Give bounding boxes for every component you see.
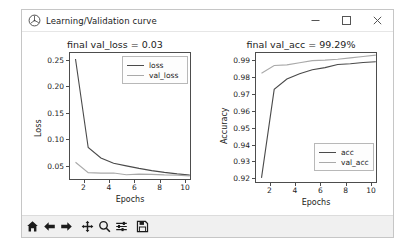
loss-xtick-label: 10: [175, 183, 195, 192]
accuracy-ytick-label: 0.94: [224, 141, 250, 150]
legend-label: acc: [341, 148, 354, 157]
subplot-config-icon[interactable]: [113, 218, 130, 236]
accuracy-ytick-label: 0.96: [224, 107, 250, 116]
loss-ytick-label: 0.15: [38, 109, 64, 118]
accuracy-xtick-label: 4: [285, 186, 305, 195]
loss-ytick-label: 0.05: [38, 162, 64, 171]
legend-swatch-acc: [319, 152, 336, 153]
loss-chart-title: final val_loss = 0.03: [22, 39, 208, 50]
legend-entry: acc: [319, 147, 369, 157]
accuracy-legend: acc val_acc: [314, 143, 374, 171]
accuracy-xtick-label: 6: [310, 186, 330, 195]
legend-entry: loss: [127, 60, 183, 70]
legend-entry: val_loss: [127, 70, 183, 80]
legend-label: loss: [149, 61, 164, 70]
accuracy-xtick-label: 2: [260, 186, 280, 195]
window-title: Learning/Validation curve: [46, 16, 300, 26]
navigation-toolbar: [22, 215, 393, 237]
accuracy-ytick-label: 0.95: [224, 124, 250, 133]
loss-xtick-label: 8: [150, 183, 170, 192]
legend-swatch-val-acc: [319, 162, 336, 163]
loss-xtick-label: 2: [74, 183, 94, 192]
maximize-button[interactable]: [331, 10, 362, 31]
accuracy-x-axis-label: Epochs: [255, 198, 377, 207]
zoom-magnifier-icon[interactable]: [96, 218, 113, 236]
legend-label: val_acc: [341, 158, 369, 167]
accuracy-ytick-label: 0.99: [224, 56, 250, 65]
legend-label: val_loss: [149, 71, 178, 80]
legend-swatch-val-loss: [127, 75, 144, 76]
pan-move-icon[interactable]: [79, 218, 96, 236]
loss-ytick-label: 0.10: [38, 135, 64, 144]
loss-x-axis-label: Epochs: [69, 195, 191, 204]
loss-xtick-label: 4: [99, 183, 119, 192]
loss-xtick-label: 6: [124, 183, 144, 192]
accuracy-ytick-label: 0.92: [224, 174, 250, 183]
matplotlib-figure-icon: [27, 14, 41, 28]
accuracy-axes: final val_acc = 99.29% Accuracy 0.99 0.9…: [208, 32, 393, 215]
accuracy-xtick-label: 8: [336, 186, 356, 195]
accuracy-xtick-label: 10: [361, 186, 381, 195]
close-button[interactable]: [362, 10, 393, 31]
accuracy-line-val: [262, 55, 376, 73]
window-controls: [300, 10, 393, 31]
accuracy-ytick-label: 0.93: [224, 157, 250, 166]
accuracy-ytick-label: 0.97: [224, 90, 250, 99]
save-floppy-icon[interactable]: [134, 218, 151, 236]
minimize-button[interactable]: [300, 10, 331, 31]
forward-arrow-icon[interactable]: [58, 218, 75, 236]
title-bar: Learning/Validation curve: [22, 10, 393, 32]
accuracy-chart-title: final val_acc = 99.29%: [208, 39, 393, 50]
accuracy-ytick-label: 0.98: [224, 73, 250, 82]
home-icon[interactable]: [24, 218, 41, 236]
figure-window: Learning/Validation curve final va: [21, 9, 394, 238]
loss-ytick-label: 0.20: [38, 82, 64, 91]
loss-axes: final val_loss = 0.03 Loss 0.25 0.20 0.1…: [22, 32, 208, 215]
loss-legend: loss val_loss: [122, 56, 188, 84]
loss-ytick-label: 0.25: [38, 56, 64, 65]
legend-swatch-loss: [127, 65, 144, 66]
back-arrow-icon[interactable]: [41, 218, 58, 236]
legend-entry: val_acc: [319, 157, 369, 167]
figure-canvas[interactable]: final val_loss = 0.03 Loss 0.25 0.20 0.1…: [22, 32, 393, 215]
